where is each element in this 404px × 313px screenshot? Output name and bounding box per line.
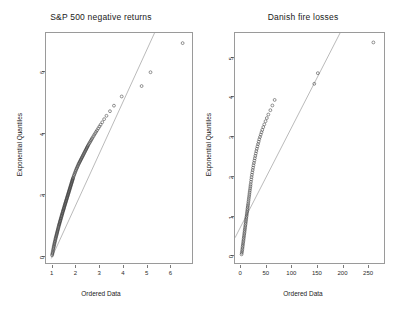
x-tick-label: 0 xyxy=(238,270,241,276)
x-tick-label: 50 xyxy=(262,270,269,276)
x-axis-danish-fire: 050100150200250 xyxy=(234,265,385,277)
x-tick-mark xyxy=(123,265,124,268)
data-point xyxy=(109,110,112,113)
x-tick-mark xyxy=(147,265,148,268)
y-tick-label: 4 xyxy=(228,96,234,99)
data-point xyxy=(267,113,270,116)
y-tick-label: 2 xyxy=(228,176,234,179)
x-tick-mark xyxy=(99,265,100,268)
y-axis-title-danish-fire: Exponential Quantiles xyxy=(205,105,212,185)
x-tick-label: 4 xyxy=(121,270,124,276)
reference-line xyxy=(235,33,340,238)
y-tick-label: 0 xyxy=(39,256,45,259)
y-tick-label: 4 xyxy=(39,133,45,136)
x-axis-title-sp500: Ordered Data xyxy=(0,290,202,297)
x-tick-mark xyxy=(75,265,76,268)
x-tick-label: 3 xyxy=(97,270,100,276)
data-point xyxy=(120,95,123,98)
x-tick-mark xyxy=(52,265,53,268)
scatter-canvas-sp500 xyxy=(46,33,192,263)
data-point xyxy=(269,109,272,112)
x-tick-mark xyxy=(291,265,292,268)
x-tick-mark xyxy=(343,265,344,268)
x-tick-label: 100 xyxy=(286,270,296,276)
y-tick-label: 3 xyxy=(228,136,234,139)
panel-title-sp500: S&P 500 negative returns xyxy=(0,12,202,22)
x-tick-mark xyxy=(240,265,241,268)
qq-plot-figure: S&P 500 negative returns 0246 123456 Ord… xyxy=(0,0,404,313)
y-axis-danish-fire: 012345 xyxy=(220,32,234,264)
panel-danish-fire: Danish fire losses 012345 05010015020025… xyxy=(202,0,404,313)
data-point xyxy=(101,121,104,124)
x-tick-label: 6 xyxy=(169,270,172,276)
data-point xyxy=(263,123,266,126)
x-tick-label: 250 xyxy=(363,270,373,276)
panel-title-danish-fire: Danish fire losses xyxy=(202,12,404,22)
x-tick-label: 200 xyxy=(337,270,347,276)
data-point xyxy=(113,104,116,107)
x-tick-mark xyxy=(266,265,267,268)
data-point xyxy=(372,41,375,44)
y-tick-label: 5 xyxy=(228,57,234,60)
x-axis-sp500: 123456 xyxy=(45,265,193,277)
data-point xyxy=(181,42,184,45)
data-point xyxy=(262,126,265,129)
y-tick-label: 1 xyxy=(228,216,234,219)
y-tick-label: 0 xyxy=(228,255,234,258)
data-points xyxy=(240,41,375,256)
x-tick-label: 150 xyxy=(312,270,322,276)
x-tick-mark xyxy=(317,265,318,268)
x-tick-label: 1 xyxy=(50,270,53,276)
x-tick-mark xyxy=(368,265,369,268)
data-point xyxy=(265,117,268,120)
data-point xyxy=(105,114,108,117)
reference-line xyxy=(51,33,154,258)
plot-area-sp500 xyxy=(45,32,193,264)
plot-area-danish-fire xyxy=(234,32,385,264)
x-tick-label: 2 xyxy=(74,270,77,276)
data-point xyxy=(103,118,106,121)
panel-sp500: S&P 500 negative returns 0246 123456 Ord… xyxy=(0,0,202,313)
x-tick-label: 5 xyxy=(145,270,148,276)
data-point xyxy=(316,72,319,75)
y-tick-label: 2 xyxy=(39,194,45,197)
y-tick-label: 6 xyxy=(39,71,45,74)
data-points xyxy=(51,42,184,257)
data-point xyxy=(264,120,267,123)
x-axis-title-danish-fire: Ordered Data xyxy=(202,290,404,297)
x-tick-mark xyxy=(170,265,171,268)
data-point xyxy=(149,71,152,74)
data-point xyxy=(271,104,274,107)
data-point xyxy=(140,85,143,88)
y-axis-sp500: 0246 xyxy=(31,32,45,264)
scatter-canvas-danish-fire xyxy=(235,33,384,263)
y-axis-title-sp500: Exponential Quantiles xyxy=(16,105,23,185)
data-point xyxy=(273,99,276,102)
